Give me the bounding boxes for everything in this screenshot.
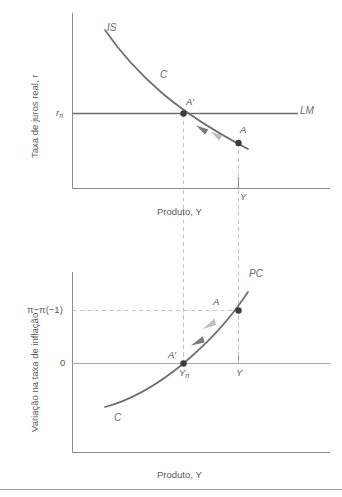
pc-curve: [105, 292, 248, 407]
is-curve-label: IS: [107, 23, 116, 33]
pc-curve-label: PC: [249, 269, 263, 279]
figure-svg: [0, 0, 342, 497]
bottom-point-a-label: A: [213, 297, 219, 307]
bottom-point-a: [235, 307, 241, 313]
lm-curve-label: LM: [300, 106, 314, 116]
bottom-y-axis-label: Variação na taxa de inflação: [30, 313, 40, 432]
bottom-arrow-dark: [191, 336, 205, 346]
top-point-a: [235, 140, 241, 146]
bottom-x-tick-yn: Yn: [179, 368, 189, 379]
bottom-point-a-prime: [180, 360, 186, 366]
top-arrow-light: [211, 132, 223, 141]
top-point-a-label: A: [240, 125, 246, 135]
bottom-x-tick-y: Y: [236, 368, 242, 378]
top-point-a-prime: [180, 110, 186, 116]
top-curve-path-label: C: [160, 70, 167, 80]
bottom-arrow-light: [203, 319, 216, 330]
figure-container: Taxa de juros real, r rn IS LM C A′ A Y …: [0, 0, 342, 497]
bottom-panel-axes: [73, 272, 331, 453]
bottom-x-axis-label: Produto, Y: [157, 470, 202, 480]
top-point-a-prime-label: A′: [186, 97, 194, 107]
bottom-x-tick-yn-subscript: n: [185, 372, 189, 379]
top-y-tick-subscript: n: [59, 112, 63, 119]
bottom-curve-path-label: C: [114, 413, 121, 423]
bottom-y-tick-inflation: π−π(−1): [27, 305, 63, 315]
top-y-axis-label: Taxa de juros real, r: [30, 75, 40, 158]
bottom-y-tick-zero: 0: [60, 358, 65, 368]
top-y-tick-label: rn: [56, 108, 63, 119]
bottom-point-a-prime-label: A′: [168, 350, 176, 360]
top-arrow-dark: [196, 126, 209, 135]
top-x-tick-label: Y: [240, 192, 246, 202]
is-curve: [105, 30, 248, 149]
top-x-axis-label: Produto, Y: [157, 207, 202, 217]
